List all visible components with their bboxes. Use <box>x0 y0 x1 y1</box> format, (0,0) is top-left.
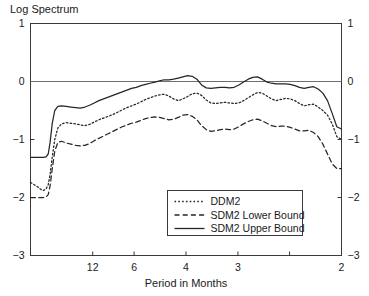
legend-label: DDM2 <box>211 195 241 207</box>
x-tick-label: 12 <box>87 261 99 273</box>
chart-page: Log Spectrum 1100−1−1−2−2−3−3126432 Peri… <box>0 0 369 296</box>
series-layer <box>31 76 342 198</box>
y-tick-label-right: 1 <box>348 17 354 29</box>
y-tick-label-right: 0 <box>348 75 354 87</box>
y-tick-label-left: 1 <box>19 17 25 29</box>
x-tick-label: 4 <box>183 261 189 273</box>
y-tick-label-right: −1 <box>348 133 360 145</box>
x-tick-label: 6 <box>131 261 137 273</box>
legend-label: SDM2 Lower Bound <box>211 209 305 221</box>
y-tick-label-left: −2 <box>13 191 25 203</box>
y-tick-label-right: −3 <box>348 249 360 261</box>
legend-label: SDM2 Upper Bound <box>211 222 305 234</box>
y-tick-label-left: −3 <box>13 249 25 261</box>
x-axis-title-text: Period in Months <box>145 277 228 289</box>
chart-legend: DDM2SDM2 Lower BoundSDM2 Upper Bound <box>168 191 305 236</box>
x-axis-title: Period in Months <box>145 277 228 289</box>
x-tick-label: 3 <box>235 261 241 273</box>
y-tick-label-right: −2 <box>348 191 360 203</box>
series-sdm2-lower-bound <box>31 115 342 198</box>
x-tick-label: 2 <box>339 261 345 273</box>
spectrum-chart: 1100−1−1−2−2−3−3126432 Period in Months … <box>0 0 369 296</box>
y-tick-label-left: −1 <box>13 133 25 145</box>
y-tick-label-left: 0 <box>19 75 25 87</box>
